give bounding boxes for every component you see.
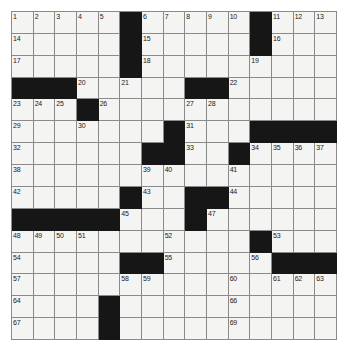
grid-cell[interactable]: [99, 78, 121, 100]
grid-cell[interactable]: [229, 209, 251, 231]
grid-cell[interactable]: 2: [34, 12, 56, 34]
grid-cell[interactable]: [250, 296, 272, 318]
grid-cell[interactable]: [34, 253, 56, 275]
grid-cell[interactable]: 29: [12, 121, 34, 143]
grid-cell[interactable]: 62: [294, 274, 316, 296]
grid-cell[interactable]: [207, 56, 229, 78]
grid-cell[interactable]: [120, 231, 142, 253]
grid-cell[interactable]: [294, 296, 316, 318]
grid-cell[interactable]: 41: [229, 165, 251, 187]
grid-cell[interactable]: 28: [207, 99, 229, 121]
grid-cell[interactable]: [185, 296, 207, 318]
grid-cell[interactable]: [164, 318, 186, 340]
grid-cell[interactable]: [164, 209, 186, 231]
grid-cell[interactable]: 22: [229, 78, 251, 100]
grid-cell[interactable]: [99, 253, 121, 275]
grid-cell[interactable]: [120, 318, 142, 340]
grid-cell[interactable]: [120, 143, 142, 165]
grid-cell[interactable]: [294, 34, 316, 56]
grid-cell[interactable]: 9: [207, 12, 229, 34]
grid-cell[interactable]: 67: [12, 318, 34, 340]
grid-cell[interactable]: [207, 231, 229, 253]
grid-cell[interactable]: [294, 78, 316, 100]
grid-cell[interactable]: 5: [99, 12, 121, 34]
grid-cell[interactable]: [250, 274, 272, 296]
grid-cell[interactable]: [185, 231, 207, 253]
grid-cell[interactable]: [229, 253, 251, 275]
grid-cell[interactable]: [207, 318, 229, 340]
grid-cell[interactable]: [34, 318, 56, 340]
grid-cell[interactable]: 27: [185, 99, 207, 121]
grid-cell[interactable]: 44: [229, 187, 251, 209]
grid-cell[interactable]: [164, 274, 186, 296]
grid-cell[interactable]: 47: [207, 209, 229, 231]
grid-cell[interactable]: [272, 165, 294, 187]
grid-cell[interactable]: 30: [77, 121, 99, 143]
grid-cell[interactable]: [164, 296, 186, 318]
grid-cell[interactable]: [55, 318, 77, 340]
grid-cell[interactable]: [315, 209, 337, 231]
grid-cell[interactable]: [164, 34, 186, 56]
grid-cell[interactable]: [99, 165, 121, 187]
grid-cell[interactable]: 58: [120, 274, 142, 296]
grid-cell[interactable]: [272, 187, 294, 209]
grid-cell[interactable]: 38: [12, 165, 34, 187]
grid-cell[interactable]: [185, 274, 207, 296]
grid-cell[interactable]: [294, 165, 316, 187]
grid-cell[interactable]: 12: [294, 12, 316, 34]
grid-cell[interactable]: [294, 56, 316, 78]
grid-cell[interactable]: [315, 187, 337, 209]
grid-cell[interactable]: [77, 165, 99, 187]
grid-cell[interactable]: [229, 99, 251, 121]
grid-cell[interactable]: [315, 296, 337, 318]
grid-cell[interactable]: [272, 78, 294, 100]
grid-cell[interactable]: [142, 318, 164, 340]
grid-cell[interactable]: [55, 143, 77, 165]
grid-cell[interactable]: [55, 165, 77, 187]
grid-cell[interactable]: 7: [164, 12, 186, 34]
grid-cell[interactable]: 50: [55, 231, 77, 253]
grid-cell[interactable]: [34, 143, 56, 165]
grid-cell[interactable]: [142, 231, 164, 253]
grid-cell[interactable]: [77, 34, 99, 56]
grid-cell[interactable]: [34, 121, 56, 143]
grid-cell[interactable]: [315, 78, 337, 100]
grid-cell[interactable]: 37: [315, 143, 337, 165]
grid-cell[interactable]: [99, 34, 121, 56]
grid-cell[interactable]: [77, 143, 99, 165]
grid-cell[interactable]: [294, 231, 316, 253]
grid-cell[interactable]: 64: [12, 296, 34, 318]
grid-cell[interactable]: [272, 209, 294, 231]
grid-cell[interactable]: [120, 296, 142, 318]
grid-cell[interactable]: [164, 56, 186, 78]
grid-cell[interactable]: 25: [55, 99, 77, 121]
grid-cell[interactable]: 24: [34, 99, 56, 121]
grid-cell[interactable]: 56: [250, 253, 272, 275]
grid-cell[interactable]: 4: [77, 12, 99, 34]
grid-cell[interactable]: [34, 165, 56, 187]
grid-cell[interactable]: [315, 318, 337, 340]
grid-cell[interactable]: [77, 296, 99, 318]
grid-cell[interactable]: [120, 99, 142, 121]
grid-cell[interactable]: 13: [315, 12, 337, 34]
grid-cell[interactable]: [142, 209, 164, 231]
grid-cell[interactable]: [229, 231, 251, 253]
grid-cell[interactable]: [315, 34, 337, 56]
grid-cell[interactable]: [164, 99, 186, 121]
grid-cell[interactable]: 26: [99, 99, 121, 121]
grid-cell[interactable]: 34: [250, 143, 272, 165]
grid-cell[interactable]: 10: [229, 12, 251, 34]
grid-cell[interactable]: 51: [77, 231, 99, 253]
grid-cell[interactable]: 33: [185, 143, 207, 165]
grid-cell[interactable]: 59: [142, 274, 164, 296]
grid-cell[interactable]: [229, 56, 251, 78]
grid-cell[interactable]: 36: [294, 143, 316, 165]
grid-cell[interactable]: 6: [142, 12, 164, 34]
grid-cell[interactable]: [164, 187, 186, 209]
grid-cell[interactable]: [55, 253, 77, 275]
grid-cell[interactable]: 63: [315, 274, 337, 296]
grid-cell[interactable]: [142, 296, 164, 318]
grid-cell[interactable]: [250, 209, 272, 231]
grid-cell[interactable]: [272, 296, 294, 318]
grid-cell[interactable]: [207, 165, 229, 187]
